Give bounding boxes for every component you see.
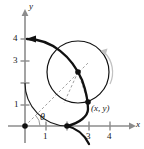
rolling-circle-diagram <box>0 0 144 149</box>
y-tick-label-3: 3 <box>13 56 18 65</box>
circle-center-dot <box>75 69 81 75</box>
y-axis-arrowhead <box>22 9 29 16</box>
cusp-dot <box>64 123 70 129</box>
x-tick-label-1: 1 <box>43 132 48 141</box>
y-tick-label-4: 4 <box>13 34 18 43</box>
origin-dot <box>22 123 28 129</box>
y-tick-label-1: 1 <box>14 100 19 109</box>
curve-start-arrowhead <box>26 36 36 43</box>
theta-label: θ <box>40 112 45 122</box>
point-xy-label: (x, y) <box>91 104 109 113</box>
rotation-arrow-icon <box>101 49 113 85</box>
x-axis-label: x <box>136 120 140 129</box>
radius-dashed-left <box>64 72 78 103</box>
x-axis-arrowhead <box>129 123 136 130</box>
axes-group <box>8 9 136 143</box>
generated-curve <box>27 39 89 144</box>
y-axis-label: y <box>29 2 33 11</box>
point-xy-dot <box>85 99 91 105</box>
x-tick-label-4: 4 <box>107 132 112 141</box>
x-tick-label-3: 3 <box>86 132 91 141</box>
